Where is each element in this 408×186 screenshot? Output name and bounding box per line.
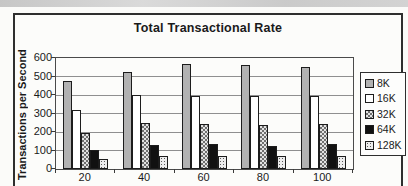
x-tick-label-20: 20 xyxy=(63,171,107,183)
bar-64K-100 xyxy=(328,144,337,169)
y-tick-label-300: 300 xyxy=(26,108,52,119)
legend-entry-16K: 16K xyxy=(365,93,405,104)
legend: 8K16K32K64K128K xyxy=(360,72,406,156)
plot-area xyxy=(55,57,354,170)
x-tick-mark-2 xyxy=(174,169,175,173)
x-tick-mark-4 xyxy=(293,169,294,173)
bar-32K-60 xyxy=(200,124,209,169)
y-tick-label-100: 100 xyxy=(26,145,52,156)
bar-16K-40 xyxy=(132,95,141,169)
y-tick-mark-500 xyxy=(51,76,55,77)
scan-artifact-strip xyxy=(0,0,408,7)
x-tick-mark-1 xyxy=(114,169,115,173)
y-tick-mark-400 xyxy=(51,94,55,95)
bar-128K-80 xyxy=(277,156,286,169)
y-tick-label-600: 600 xyxy=(26,52,52,63)
bar-32K-20 xyxy=(81,133,90,169)
x-tick-label-40: 40 xyxy=(122,171,166,183)
legend-label-16K: 16K xyxy=(377,93,396,104)
legend-label-32K: 32K xyxy=(377,109,396,120)
bar-8K-100 xyxy=(301,67,310,169)
bar-8K-60 xyxy=(182,64,191,169)
chart-title: Total Transactional Rate xyxy=(13,21,403,35)
bar-16K-100 xyxy=(310,96,319,169)
y-tick-mark-100 xyxy=(51,150,55,151)
bar-64K-20 xyxy=(90,150,99,169)
y-tick-label-400: 400 xyxy=(26,89,52,100)
legend-label-128K: 128K xyxy=(377,140,402,151)
x-tick-label-80: 80 xyxy=(241,171,285,183)
y-tick-label-0: 0 xyxy=(26,163,52,174)
legend-label-8K: 8K xyxy=(377,78,390,89)
legend-entry-128K: 128K xyxy=(365,140,405,151)
legend-entry-32K: 32K xyxy=(365,109,405,120)
bar-32K-80 xyxy=(259,125,268,169)
bar-32K-100 xyxy=(319,124,328,169)
legend-swatch-64K xyxy=(365,125,374,134)
y-tick-mark-600 xyxy=(51,57,55,58)
legend-entry-8K: 8K xyxy=(365,78,405,89)
bar-8K-40 xyxy=(123,72,132,169)
bar-32K-40 xyxy=(141,123,150,169)
legend-swatch-16K xyxy=(365,94,374,103)
legend-entry-64K: 64K xyxy=(365,124,405,135)
x-tick-label-100: 100 xyxy=(300,171,344,183)
legend-swatch-128K xyxy=(365,141,374,150)
y-tick-mark-200 xyxy=(51,131,55,132)
bar-64K-40 xyxy=(150,145,159,169)
bar-16K-80 xyxy=(250,96,259,169)
bar-128K-40 xyxy=(159,156,168,169)
legend-label-64K: 64K xyxy=(377,124,396,135)
bar-128K-60 xyxy=(218,156,227,169)
x-tick-label-60: 60 xyxy=(182,171,226,183)
bar-8K-80 xyxy=(241,65,250,169)
bar-128K-20 xyxy=(99,159,108,169)
bar-16K-60 xyxy=(191,96,200,169)
y-tick-label-500: 500 xyxy=(26,71,52,82)
bar-128K-100 xyxy=(337,156,346,169)
y-tick-label-200: 200 xyxy=(26,126,52,137)
bar-16K-20 xyxy=(72,110,81,169)
x-tick-mark-0 xyxy=(55,169,56,173)
legend-swatch-32K xyxy=(365,110,374,119)
chart-screenshot: Total Transactional Rate Transactions pe… xyxy=(0,0,408,186)
bar-64K-80 xyxy=(268,146,277,169)
y-tick-mark-300 xyxy=(51,113,55,114)
x-tick-mark-end xyxy=(352,169,353,173)
x-tick-mark-3 xyxy=(233,169,234,173)
bar-64K-60 xyxy=(209,144,218,169)
bar-8K-20 xyxy=(63,81,72,169)
legend-swatch-8K xyxy=(365,79,374,88)
